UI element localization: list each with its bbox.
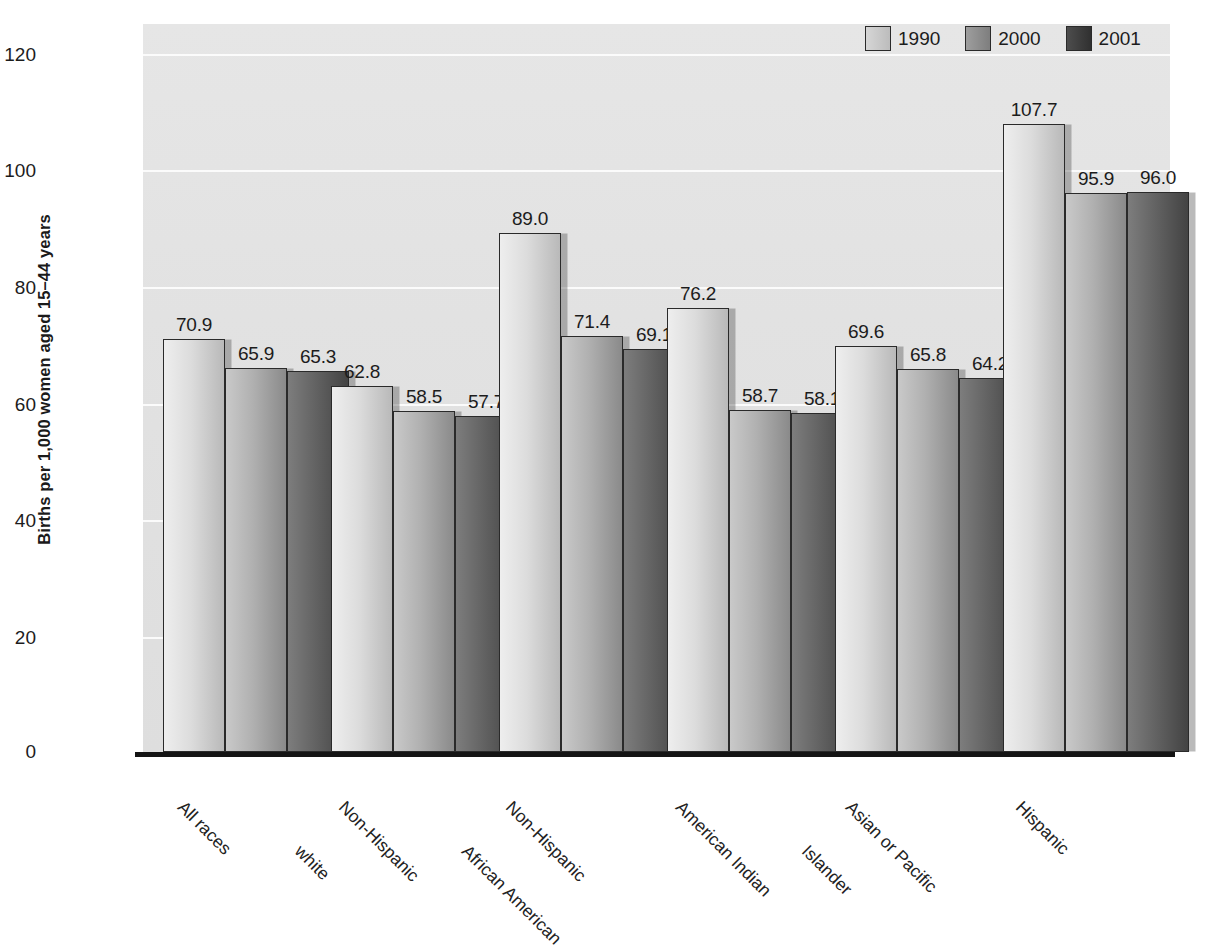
y-axis-label: Births per 1,000 women aged 15–44 years	[35, 80, 54, 680]
y-tick-0: 0	[0, 741, 36, 763]
legend-swatch-2000-icon	[965, 26, 991, 51]
y-tick-100: 100	[0, 160, 36, 182]
plot-area	[143, 24, 1170, 752]
x-category-line1: American Indian	[671, 797, 775, 901]
legend-item-2001: 2001	[1066, 26, 1141, 51]
legend-item-1990: 1990	[865, 26, 940, 51]
x-category-line1: All races	[173, 797, 235, 859]
legend-swatch-2001-icon	[1066, 26, 1092, 51]
gridline-100	[143, 170, 1170, 172]
gridline-40	[143, 520, 1170, 522]
y-tick-120: 120	[0, 44, 36, 66]
legend-swatch-1990-icon	[865, 26, 891, 51]
legend-label-2001: 2001	[1099, 28, 1141, 50]
x-category-label-all-races: All races	[144, 768, 264, 888]
x-axis-baseline	[135, 752, 1175, 757]
x-category-label-asian-or-pacific-islander: Asian or Pacific Islander	[768, 768, 970, 949]
y-tick-60: 60	[0, 394, 36, 416]
legend-item-2000: 2000	[965, 26, 1040, 51]
gridline-20	[143, 637, 1170, 639]
x-category-label-american-indian: American Indian	[642, 768, 804, 930]
gridline-60	[143, 404, 1170, 406]
x-category-label-hispanic: Hispanic	[982, 768, 1102, 888]
x-category-line1: Hispanic	[1011, 797, 1073, 859]
x-category-line2: white	[290, 841, 379, 930]
y-tick-80: 80	[0, 277, 36, 299]
chart-legend: 1990 2000 2001	[865, 26, 1156, 51]
gridline-120	[143, 54, 1170, 56]
x-category-label-non-hispanic-white: Non-Hispanic white	[261, 768, 452, 949]
gridline-80	[143, 287, 1170, 289]
legend-label-2000: 2000	[998, 28, 1040, 50]
y-tick-40: 40	[0, 510, 36, 532]
x-category-line1: Non-Hispanic	[334, 797, 423, 886]
legend-label-1990: 1990	[898, 28, 940, 50]
x-category-label-non-hispanic-african-american: Non-Hispanic African American	[428, 768, 638, 949]
x-category-line1: Asian or Pacific	[841, 797, 941, 897]
x-category-line2: Islander	[797, 841, 897, 941]
y-tick-20: 20	[0, 627, 36, 649]
